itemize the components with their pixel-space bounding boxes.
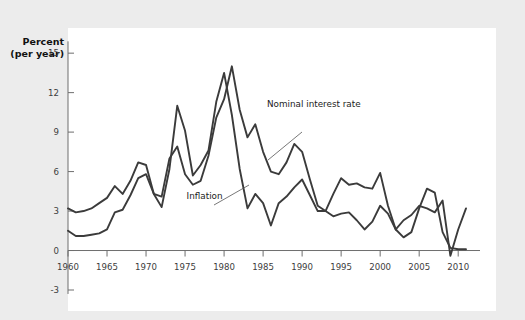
y-tick-label: 12 bbox=[48, 88, 59, 98]
series-group bbox=[68, 66, 466, 255]
y-tick-label: 6 bbox=[54, 167, 59, 177]
series-annotation-inflation: Inflation bbox=[187, 191, 223, 201]
chart-svg: 15129630-3 19601965197019751980198519901… bbox=[0, 0, 525, 320]
x-tick-label: 1960 bbox=[57, 262, 79, 272]
series-annotation-nominal-interest-rate: Nominal interest rate bbox=[267, 99, 361, 109]
x-tick-label: 1995 bbox=[330, 262, 352, 272]
x-tick-label: 1965 bbox=[96, 262, 118, 272]
y-tick-label: 3 bbox=[54, 206, 59, 216]
x-tick-label: 1975 bbox=[174, 262, 196, 272]
y-tick-label: 15 bbox=[48, 48, 59, 58]
x-axis-group: 1960196519701975198019851990199520002005… bbox=[57, 251, 480, 272]
y-tick-label: -3 bbox=[50, 285, 59, 295]
x-tick-label: 1990 bbox=[291, 262, 313, 272]
x-tick-group: 1960196519701975198019851990199520002005… bbox=[57, 251, 469, 272]
y-tick-label: 0 bbox=[54, 246, 59, 256]
x-tick-label: 2010 bbox=[447, 262, 469, 272]
y-tick-label: 9 bbox=[54, 127, 59, 137]
x-tick-label: 2005 bbox=[408, 262, 430, 272]
series-line-nominal-interest-rate bbox=[68, 66, 466, 249]
chart-root: Percent (per year) 15129630-3 1960196519… bbox=[0, 0, 525, 320]
annotation-group: Nominal interest rateInflation bbox=[187, 99, 361, 205]
x-tick-label: 1985 bbox=[252, 262, 274, 272]
x-tick-label: 1970 bbox=[135, 262, 157, 272]
y-axis-group: 15129630-3 bbox=[48, 41, 74, 295]
x-tick-label: 1980 bbox=[213, 262, 235, 272]
x-tick-label: 2000 bbox=[369, 262, 391, 272]
y-tick-group: 15129630-3 bbox=[48, 48, 74, 295]
